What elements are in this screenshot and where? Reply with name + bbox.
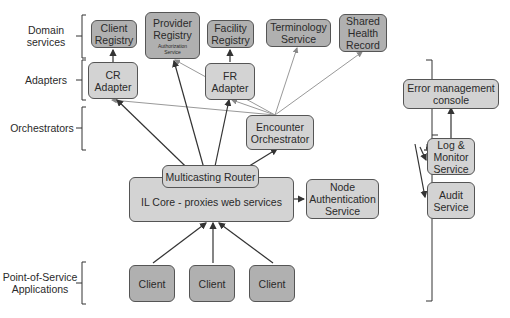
node-terminology-service[interactable]: Terminology Service (266, 19, 331, 47)
node-text: Record (346, 39, 380, 51)
node-text: IL Core - proxies web services (141, 196, 282, 208)
node-text: console (433, 94, 469, 106)
node-client-1[interactable]: Client (129, 265, 175, 302)
node-text: Service (281, 33, 316, 45)
node-text: Log & (437, 139, 464, 151)
subtext-line: Service (158, 49, 187, 55)
node-text: Terminology (270, 21, 327, 33)
node-provider-registry[interactable]: Provider Registry Authorization Service (145, 12, 200, 59)
node-text: Service (325, 205, 360, 217)
layer-label-point-of-service: Point-of-Service Applications (2, 271, 78, 295)
label-line: Orchestrators (8, 122, 76, 134)
node-text: Client (139, 278, 166, 290)
node-text: Orchestrator (251, 133, 309, 145)
node-text: Client (199, 278, 226, 290)
layer-label-domain-services: Domain services (18, 24, 74, 48)
layer-label-orchestrators: Orchestrators (8, 122, 76, 134)
layer-label-adapters: Adapters (18, 74, 74, 86)
node-text: Monitor (433, 151, 468, 163)
node-text: Adapter (212, 82, 249, 94)
node-text: Registry (95, 34, 134, 46)
node-text: Registry (153, 29, 192, 41)
node-client-registry[interactable]: Client Registry (91, 20, 137, 48)
node-text: Provider (153, 17, 192, 29)
node-text: Node (330, 181, 355, 193)
node-text: Adapter (95, 81, 132, 93)
node-multicasting-router[interactable]: Multicasting Router (162, 165, 259, 188)
node-text: Client (259, 278, 286, 290)
label-line: services (18, 36, 74, 48)
label-line: Applications (2, 283, 78, 295)
node-text: Service (433, 163, 468, 175)
node-error-management-console[interactable]: Error management console (403, 79, 499, 109)
node-client-2[interactable]: Client (189, 265, 235, 302)
node-audit-service[interactable]: Audit Service (427, 182, 475, 219)
node-facility-registry[interactable]: Facility Registry (207, 20, 254, 48)
label-line: Domain (18, 24, 74, 36)
node-text: Error management (407, 82, 495, 94)
node-node-authentication-service[interactable]: Node Authentication Service (306, 179, 379, 219)
node-text: Health (348, 27, 378, 39)
architecture-diagram: Domain services Adapters Orchestrators P… (0, 0, 510, 318)
node-text: Registry (211, 34, 250, 46)
node-text: Client (101, 22, 128, 34)
node-text: Encounter (256, 121, 304, 133)
node-client-3[interactable]: Client (249, 265, 295, 302)
node-text: Audit (439, 189, 463, 201)
node-subtext: Authorization Service (158, 43, 187, 55)
label-line: Point-of-Service (2, 271, 78, 283)
node-text: Multicasting Router (166, 171, 256, 183)
node-log-monitor-service[interactable]: Log & Monitor Service (427, 138, 475, 175)
layer-braces (76, 15, 438, 304)
label-line: Adapters (18, 74, 74, 86)
node-text: CR (105, 69, 120, 81)
subtext-line: Authorization (158, 43, 187, 49)
node-text: Shared (346, 15, 380, 27)
node-text: FR (223, 70, 237, 82)
node-encounter-orchestrator[interactable]: Encounter Orchestrator (246, 115, 314, 150)
node-fr-adapter[interactable]: FR Adapter (205, 63, 255, 100)
node-shared-health-record[interactable]: Shared Health Record (339, 14, 387, 52)
node-text: Authentication (309, 193, 376, 205)
node-cr-adapter[interactable]: CR Adapter (88, 62, 138, 99)
node-text: Facility (214, 22, 247, 34)
node-text: Service (433, 201, 468, 213)
